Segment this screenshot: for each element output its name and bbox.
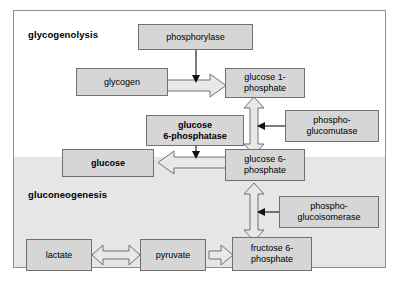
arrow-glucose-1-phosphate-to-glucose-6-phosphate xyxy=(244,97,264,155)
node-glucose-6-phosphate-label-line2: phosphate xyxy=(244,165,286,176)
node-glucose-6-phosphatase-label-line1: glucose xyxy=(178,120,212,131)
section-label-gluconeogenesis: gluconeogenesis xyxy=(28,189,107,200)
node-glucose-6-phosphatase[interactable]: glucose 6-phosphatase xyxy=(146,115,244,146)
node-phosphorylase-label: phosphorylase xyxy=(166,32,225,43)
node-fructose-6-phosphate-label-line2: phosphate xyxy=(251,254,293,265)
node-lactate[interactable]: lactate xyxy=(26,239,92,271)
diagram-frame: glycogenolysis gluconeogenesis phosphory… xyxy=(13,10,386,268)
node-phosphoglucomutase-label-line2: glucomutase xyxy=(306,126,357,137)
node-glucose-1-phosphate[interactable]: glucose 1- phosphate xyxy=(225,68,305,98)
node-glycogen-label: glycogen xyxy=(104,77,140,88)
node-phosphoglucoisomerase[interactable]: phospho- glucoisomerase xyxy=(279,196,379,228)
node-phosphoglucomutase-label-line1: phospho- xyxy=(313,115,351,126)
node-fructose-6-phosphate[interactable]: fructose 6- phosphate xyxy=(232,237,312,271)
node-glucose[interactable]: glucose xyxy=(62,149,154,177)
node-glucose-1-phosphate-label-line1: glucose 1- xyxy=(244,72,286,83)
diagram-canvas: glycogenolysis gluconeogenesis phosphory… xyxy=(0,0,400,283)
node-phosphoglucoisomerase-label-line1: phospho- xyxy=(310,201,348,212)
node-glucose-6-phosphate[interactable]: glucose 6- phosphate xyxy=(225,149,305,181)
node-fructose-6-phosphate-label-line1: fructose 6- xyxy=(251,243,294,254)
node-glucose-label: glucose xyxy=(91,158,125,169)
node-glucose-6-phosphate-label-line1: glucose 6- xyxy=(244,154,286,165)
node-phosphorylase[interactable]: phosphorylase xyxy=(138,24,253,50)
node-lactate-label: lactate xyxy=(46,250,73,261)
node-pyruvate[interactable]: pyruvate xyxy=(140,239,206,271)
node-glucose-1-phosphate-label-line2: phosphate xyxy=(244,83,286,94)
section-label-glycogenolysis: glycogenolysis xyxy=(28,29,98,40)
node-phosphoglucomutase[interactable]: phospho- glucomutase xyxy=(285,110,379,142)
node-phosphoglucoisomerase-label-line2: glucoisomerase xyxy=(297,212,360,223)
node-glucose-6-phosphatase-label-line2: 6-phosphatase xyxy=(163,131,227,142)
node-glycogen[interactable]: glycogen xyxy=(76,68,168,96)
node-pyruvate-label: pyruvate xyxy=(156,250,191,261)
thin-arrow-phosphoglucomutase-head xyxy=(257,122,265,130)
thin-arrow-phosphorylase-head xyxy=(192,75,200,83)
arrow-glycogen-to-glucose-1-phosphate xyxy=(166,74,226,97)
